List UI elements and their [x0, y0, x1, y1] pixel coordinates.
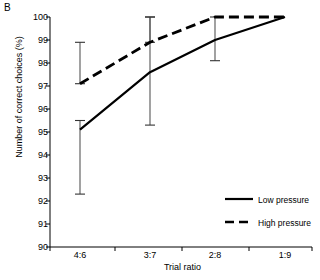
legend-label-high-pressure: High pressure	[258, 218, 311, 228]
series-lines	[80, 17, 285, 130]
series-low-pressure	[80, 17, 285, 130]
legend-label-low-pressure: Low pressure	[258, 195, 309, 205]
chart-figure: B Number of correct choices (%) Trial ra…	[0, 0, 320, 280]
legend-marks	[225, 199, 253, 222]
plot-area	[0, 0, 320, 280]
axes	[46, 17, 312, 251]
